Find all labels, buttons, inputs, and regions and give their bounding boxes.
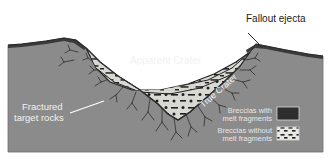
diagram-canvas: Fallout ejecta Apparent Crater True Crat… [0, 0, 331, 159]
legend-item-0-line2: melt fragments [222, 114, 272, 123]
fractured-target-rocks-label-line2: target rocks [14, 112, 64, 123]
fallout-ejecta-label: Fallout ejecta [246, 13, 306, 24]
legend-swatch-melt [277, 107, 299, 120]
apparent-crater-label: Apparent Crater [130, 55, 202, 66]
legend-swatch-no-melt [277, 127, 299, 140]
fractured-target-rocks-label-line1: Fractured [22, 101, 63, 112]
crater-cross-section-figure: Fallout ejecta Apparent Crater True Crat… [0, 0, 331, 159]
legend-item-1-line2: melt fragments [222, 134, 272, 143]
